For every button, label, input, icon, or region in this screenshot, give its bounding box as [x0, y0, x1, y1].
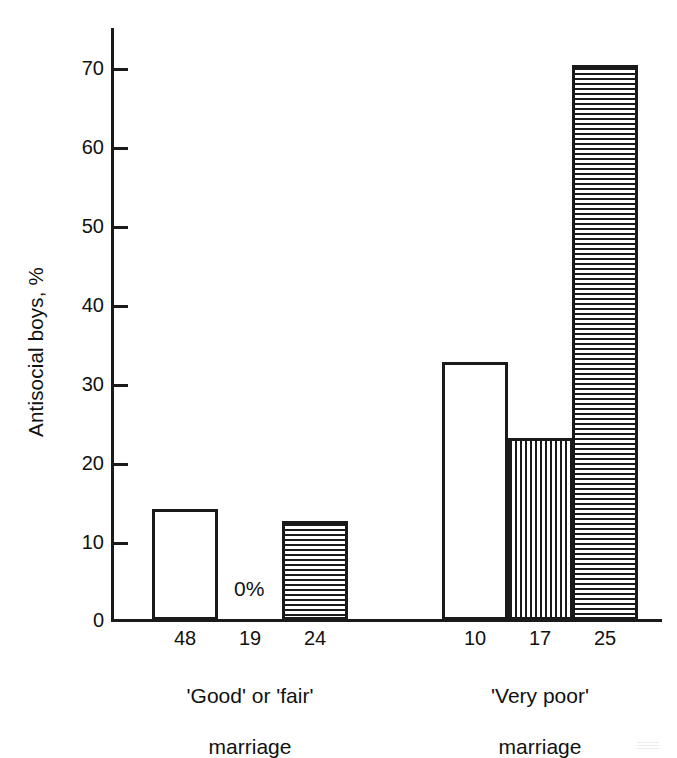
y-tick-label-50: 50: [52, 216, 104, 236]
y-tick-mark-40: [114, 305, 128, 308]
y-tick-label-70: 70: [52, 58, 104, 78]
y-tick-label-60: 60: [52, 137, 104, 157]
y-tick-label-20: 20: [52, 453, 104, 473]
group-label-very-poor: 'Very poor' marriage: [420, 685, 660, 757]
y-tick-mark-20: [114, 463, 128, 466]
group-label-very-poor-line2: marriage: [420, 736, 660, 757]
y-tick-mark-10: [114, 542, 128, 545]
bar-25: [572, 65, 638, 620]
x-tick-label-17: 17: [508, 628, 572, 648]
y-tick-mark-60: [114, 147, 128, 150]
x-tick-label-19: 19: [218, 628, 282, 648]
group-label-very-poor-line1: 'Very poor': [491, 684, 589, 707]
zero-percent-annotation: 0%: [234, 578, 264, 599]
y-tick-60: 60: [0, 147, 128, 150]
y-tick-20: 20: [0, 463, 128, 466]
bar-10: [442, 362, 508, 620]
y-tick-0: 0: [0, 620, 128, 623]
y-tick-label-10: 10: [52, 532, 104, 552]
y-tick-30: 30: [0, 384, 128, 387]
y-tick-mark-70: [114, 68, 128, 71]
y-tick-70: 70: [0, 68, 128, 71]
y-tick-10: 10: [0, 542, 128, 545]
x-tick-label-24: 24: [283, 628, 347, 648]
y-axis-title: Antisocial boys, %: [24, 202, 48, 502]
y-tick-label-30: 30: [52, 374, 104, 394]
bar-24: [282, 521, 348, 620]
group-label-good-or-fair: 'Good' or 'fair' marriage: [130, 685, 370, 757]
y-tick-label-0: 0: [52, 610, 104, 630]
bar-48: [152, 509, 218, 620]
x-tick-label-25: 25: [573, 628, 637, 648]
page-scan-artifact: [637, 742, 659, 751]
y-tick-50: 50: [0, 226, 128, 229]
y-tick-mark-50: [114, 226, 128, 229]
bar-17: [507, 438, 573, 620]
y-tick-40: 40: [0, 305, 128, 308]
y-tick-label-40: 40: [52, 295, 104, 315]
x-tick-label-10: 10: [443, 628, 507, 648]
y-axis-line: [111, 28, 114, 622]
group-label-good-or-fair-line2: marriage: [130, 736, 370, 757]
x-tick-label-48: 48: [153, 628, 217, 648]
y-tick-mark-30: [114, 384, 128, 387]
group-label-good-or-fair-line1: 'Good' or 'fair': [187, 684, 314, 707]
